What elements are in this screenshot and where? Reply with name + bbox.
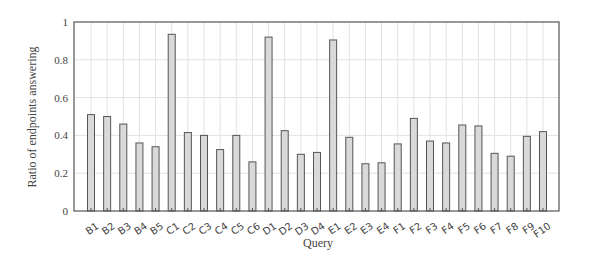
x-tick-label: E2 <box>342 220 359 236</box>
bar-chart: 00.20.40.60.81 B1B2B3B4B5C1C2C3C4C5C6D1D… <box>0 0 589 264</box>
x-tick-label: C4 <box>213 220 230 237</box>
bar-d2 <box>281 131 288 211</box>
y-axis-ticks: 00.20.40.60.81 <box>54 16 68 217</box>
bar-b1 <box>88 115 95 211</box>
x-tick-label: C5 <box>229 220 246 237</box>
bar-f7 <box>491 153 498 211</box>
x-tick-label: B2 <box>100 220 117 237</box>
bar-c2 <box>184 133 191 211</box>
bar-c5 <box>233 135 240 211</box>
x-tick-label: F10 <box>531 220 552 240</box>
bar-f4 <box>443 143 450 211</box>
x-tick-label: B4 <box>132 220 149 237</box>
bar-c3 <box>201 135 208 211</box>
y-tick-label: 1 <box>63 16 69 28</box>
bar-d1 <box>265 37 272 211</box>
bar-b4 <box>136 143 143 211</box>
x-tick-label: F6 <box>472 220 488 236</box>
bar-b5 <box>152 147 159 211</box>
bar-e4 <box>378 163 385 211</box>
y-tick-label: 0 <box>63 205 69 217</box>
bar-f10 <box>540 132 547 211</box>
x-tick-label: C1 <box>164 220 181 237</box>
x-tick-label: C3 <box>196 220 213 237</box>
y-axis-title: Ratio of endpoints answering <box>25 47 39 188</box>
bar-f3 <box>427 141 434 211</box>
y-tick-label: 0.6 <box>54 92 68 104</box>
x-tick-label: E4 <box>375 220 392 236</box>
bar-f2 <box>410 118 417 211</box>
bar-f9 <box>523 136 530 211</box>
x-tick-label: B5 <box>148 220 165 237</box>
bar-c4 <box>217 150 224 211</box>
bar-d4 <box>314 152 321 211</box>
bar-e1 <box>330 40 337 211</box>
x-tick-label: B1 <box>84 220 101 237</box>
x-tick-label: D2 <box>277 220 295 237</box>
bar-f8 <box>507 156 514 211</box>
bar-d3 <box>297 154 304 211</box>
x-tick-label: F8 <box>504 220 520 236</box>
x-tick-label: E3 <box>358 220 375 236</box>
y-tick-label: 0.2 <box>54 167 68 179</box>
x-axis-title: Query <box>303 236 333 250</box>
bar-b3 <box>120 124 127 211</box>
x-tick-label: B3 <box>116 220 133 237</box>
y-tick-label: 0.4 <box>54 129 68 141</box>
x-tick-label: F5 <box>456 220 472 236</box>
x-tick-label: D4 <box>309 220 327 237</box>
bar-f5 <box>459 125 466 211</box>
bar-e2 <box>346 137 353 211</box>
x-tick-label: D3 <box>293 220 311 237</box>
x-tick-label: D1 <box>260 220 278 237</box>
x-tick-label: C2 <box>180 220 197 237</box>
x-tick-label: F4 <box>440 220 456 236</box>
bar-b2 <box>104 117 111 212</box>
bar-f1 <box>394 144 401 211</box>
bar-e3 <box>362 164 369 211</box>
x-tick-label: F7 <box>488 220 504 236</box>
bar-f6 <box>475 126 482 211</box>
x-tick-label: F1 <box>391 220 407 236</box>
x-tick-label: F3 <box>423 220 439 236</box>
x-tick-label: E1 <box>326 220 343 236</box>
bar-c6 <box>249 162 256 211</box>
bar-c1 <box>168 34 175 211</box>
x-tick-label: F2 <box>407 220 423 236</box>
y-tick-label: 0.8 <box>54 54 68 66</box>
